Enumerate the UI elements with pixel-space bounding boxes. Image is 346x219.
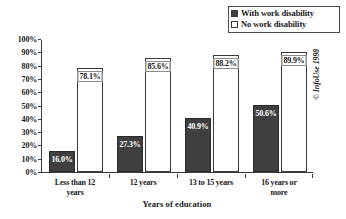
bar-value-label: 89.9%	[281, 55, 306, 66]
x-axis-category-label: 13 to 15 years	[177, 178, 245, 188]
legend-item-label: No work disability	[241, 19, 306, 30]
x-axis: Less than 12 years 12 years 13 to 15 yea…	[41, 174, 313, 198]
x-axis-category-line: 12 years	[109, 178, 177, 188]
y-axis-tick: 50%	[0, 101, 41, 112]
bar-value-label: 40.9%	[187, 122, 208, 131]
y-axis-tick: 60%	[0, 87, 41, 98]
bar-group-13-to-15-years: 40.9% 88.2%	[178, 40, 246, 172]
bar-no-work-disability[interactable]: 88.2%	[213, 55, 239, 172]
x-axis-category-line: years	[41, 188, 109, 198]
x-axis-category-line: 16 years or	[245, 178, 313, 188]
x-axis-category-line: more	[245, 188, 313, 198]
legend-item-label: With work disability	[241, 8, 314, 19]
y-axis-tick: 10%	[0, 154, 41, 165]
bar-no-work-disability[interactable]: 78.1%	[77, 68, 103, 172]
bar-with-work-disability[interactable]: 40.9%	[185, 118, 211, 172]
bar-with-work-disability[interactable]: 16.0%	[49, 151, 75, 172]
x-axis-category-label: 12 years	[109, 178, 177, 188]
bar-value-label: 88.2%	[213, 58, 238, 69]
bar-with-work-disability[interactable]: 50.6%	[253, 105, 279, 172]
plot-area: 16.0% 78.1% 27.3% 85.6% 40.9% 88.2% 50.6…	[41, 40, 313, 173]
legend-filled-square-icon	[231, 10, 238, 17]
bar-value-label: 85.6%	[145, 61, 170, 72]
bar-with-work-disability[interactable]: 27.3%	[117, 136, 143, 172]
bar-no-work-disability[interactable]: 85.6%	[145, 58, 171, 172]
y-axis-tick: 0%	[0, 167, 41, 178]
x-axis-category-line: 13 to 15 years	[177, 178, 245, 188]
y-axis-tick: 70%	[0, 74, 41, 85]
y-axis-tick: 100%	[0, 34, 41, 45]
legend-item-no-work-disability: No work disability	[231, 19, 337, 30]
legend-hollow-square-icon	[231, 21, 238, 28]
y-axis-tick: 20%	[0, 140, 41, 151]
y-axis: 100% 90% 80% 70% 60% 50% 40% 30% 20% 10%…	[0, 34, 41, 179]
bar-value-label: 78.1%	[77, 71, 102, 82]
y-axis-tick: 30%	[0, 127, 41, 138]
x-axis-category-line: Less than 12	[41, 178, 109, 188]
x-axis-category-label: Less than 12 years	[41, 178, 109, 198]
copyright-notice: © InfoUse 1998	[312, 49, 321, 100]
x-axis-title: Years of education	[41, 199, 313, 209]
bar-group-16-years-or-more: 50.6% 89.9%	[246, 40, 314, 172]
chart-legend: With work disability No work disability	[228, 6, 340, 33]
x-axis-category-label: 16 years or more	[245, 178, 313, 198]
y-axis-tick: 40%	[0, 114, 41, 125]
bar-group-less-than-12-years: 16.0% 78.1%	[42, 40, 110, 172]
y-axis-tick: 90%	[0, 47, 41, 58]
y-axis-tick: 80%	[0, 61, 41, 72]
bar-no-work-disability[interactable]: 89.9%	[281, 52, 307, 172]
bar-value-label: 27.3%	[119, 140, 140, 149]
bar-value-label: 50.6%	[255, 109, 276, 118]
bar-value-label: 16.0%	[51, 155, 72, 164]
legend-item-with-work-disability: With work disability	[231, 8, 337, 19]
bar-group-12-years: 27.3% 85.6%	[110, 40, 178, 172]
